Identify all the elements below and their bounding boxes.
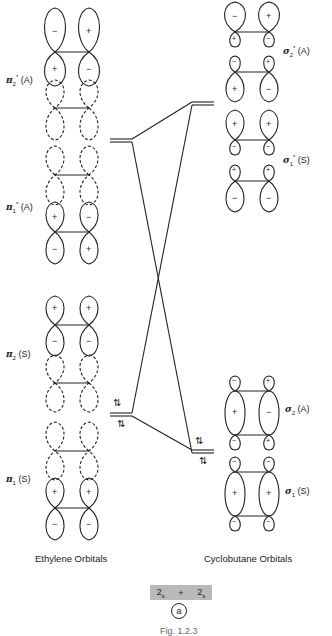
- sign: −: [266, 35, 270, 42]
- sign: −: [232, 143, 236, 150]
- sign: +: [266, 166, 270, 173]
- reaction-type-badge: 2s + 2s: [150, 585, 212, 600]
- sign: +: [232, 407, 237, 417]
- lobe-signs: − + + − + − − + + + − − + + − − − + + − …: [0, 0, 332, 636]
- electron-pair-icon: ⇅: [195, 435, 203, 446]
- sign: −: [266, 518, 270, 525]
- sign: −: [232, 518, 236, 525]
- label-pi1-star: π1* (A): [6, 201, 33, 214]
- sign: +: [52, 487, 57, 497]
- electron-pair-icon: ⇅: [117, 418, 125, 429]
- sign: +: [86, 303, 91, 313]
- sign: +: [52, 303, 57, 313]
- sign: +: [232, 488, 237, 498]
- sign: +: [232, 35, 236, 42]
- sign: +: [52, 212, 57, 222]
- label-sigma1: σ1 (S): [285, 486, 310, 498]
- figure-caption: Fig. 1.2.3: [160, 626, 198, 636]
- sign: −: [266, 143, 270, 150]
- sign: −: [52, 244, 57, 254]
- sign: −: [266, 193, 271, 203]
- sign: −: [232, 377, 236, 384]
- sign: +: [232, 119, 237, 129]
- sign: −: [86, 212, 91, 222]
- cyclobutane-orbitals-caption: Cyclobutane Orbitals: [204, 553, 292, 564]
- sign: +: [86, 487, 91, 497]
- sign: −: [232, 437, 236, 444]
- sign: −: [86, 519, 91, 529]
- sign: −: [266, 407, 271, 417]
- electron-pair-icon: ⇅: [113, 397, 121, 408]
- sign: +: [232, 166, 236, 173]
- electron-pair-icon: ⇅: [199, 455, 207, 466]
- ethylene-orbitals-caption: Ethylene Orbitals: [35, 553, 107, 564]
- sign: +: [266, 58, 270, 65]
- label-sigma1-star: σ1* (S): [283, 154, 310, 167]
- sign: +: [86, 244, 91, 254]
- sign: −: [232, 11, 237, 21]
- label-pi2-star: π2* (A): [6, 74, 33, 87]
- sign: +: [266, 488, 271, 498]
- sign: −: [86, 64, 91, 74]
- sign: −: [52, 26, 57, 36]
- sign: −: [52, 519, 57, 529]
- sign: −: [266, 458, 270, 465]
- sign: +: [266, 437, 270, 444]
- sign: +: [266, 11, 271, 21]
- sign: −: [266, 84, 271, 94]
- sign: −: [232, 58, 236, 65]
- sign: −: [86, 336, 91, 346]
- label-pi2: π2 (S): [6, 349, 30, 361]
- label-sigma2: σ2 (A): [285, 404, 310, 416]
- sign: +: [266, 377, 270, 384]
- sign: +: [52, 64, 57, 74]
- sign: +: [266, 119, 271, 129]
- panel-tag-circle: a: [171, 603, 187, 619]
- label-sigma2-star: σ2* (A): [283, 45, 310, 58]
- sign: −: [232, 193, 237, 203]
- sign: +: [86, 26, 91, 36]
- sign: −: [232, 458, 236, 465]
- label-pi1: π1 (S): [6, 474, 30, 486]
- sign: +: [232, 84, 237, 94]
- sign: −: [52, 336, 57, 346]
